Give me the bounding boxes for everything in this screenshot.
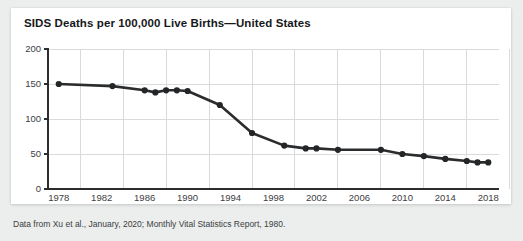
y-tick-label: 0: [36, 183, 41, 194]
data-point: [485, 159, 491, 165]
line-chart-svg: 0501001502001978198219861990199419982002…: [11, 8, 511, 204]
chart-plot-area: 0501001502001978198219861990199419982002…: [11, 8, 511, 204]
x-tick-label: 2010: [392, 192, 413, 203]
y-tick-label: 100: [25, 113, 41, 124]
data-point: [313, 145, 319, 151]
data-point: [281, 143, 287, 149]
data-point: [378, 147, 384, 153]
y-tick-label: 200: [25, 43, 41, 54]
x-tick-label: 1978: [48, 192, 69, 203]
y-tick-label: 50: [30, 148, 41, 159]
chart-card: SIDS Deaths per 100,000 Live Births—Unit…: [11, 8, 511, 204]
x-tick-label: 2006: [349, 192, 370, 203]
chart-source-note: Data from Xu et al., January, 2020; Mont…: [13, 219, 285, 229]
data-point: [421, 153, 427, 159]
data-point: [399, 151, 405, 157]
screenshot-root: SIDS Deaths per 100,000 Live Births—Unit…: [0, 0, 523, 241]
data-point: [464, 158, 470, 164]
x-tick-label: 2018: [478, 192, 499, 203]
x-tick-label: 2014: [435, 192, 456, 203]
data-point: [109, 83, 115, 89]
x-tick-label: 1994: [220, 192, 241, 203]
x-tick-label: 2002: [306, 192, 327, 203]
x-tick-label: 1998: [263, 192, 284, 203]
data-point: [442, 156, 448, 162]
y-tick-label: 150: [25, 78, 41, 89]
data-point: [303, 145, 309, 151]
data-point: [174, 87, 180, 93]
data-point: [152, 89, 158, 95]
x-tick-label: 1986: [134, 192, 155, 203]
data-point: [184, 88, 190, 94]
data-point: [56, 81, 62, 87]
data-point: [335, 147, 341, 153]
x-tick-label: 1982: [91, 192, 112, 203]
data-point: [217, 102, 223, 108]
data-point: [249, 130, 255, 136]
data-point: [163, 87, 169, 93]
x-tick-label: 1990: [177, 192, 198, 203]
data-point: [142, 87, 148, 93]
data-point: [474, 159, 480, 165]
